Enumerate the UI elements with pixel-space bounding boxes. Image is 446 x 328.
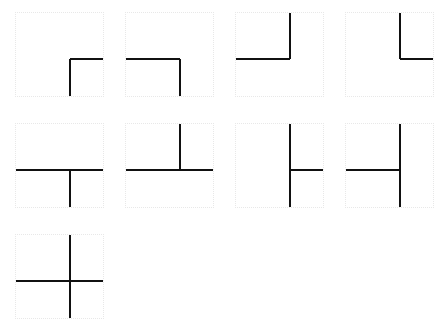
shape-cell-tee-down xyxy=(15,123,104,208)
shape-cell-corner-left-up xyxy=(235,12,324,97)
junction-canvas xyxy=(126,124,213,207)
shape-cell-corner-right-up xyxy=(345,12,434,97)
junction-canvas xyxy=(346,13,433,96)
junction-canvas xyxy=(16,124,103,207)
shape-cell-cross-four-way xyxy=(15,234,104,319)
shape-cell-corner-right-down xyxy=(15,12,104,97)
shape-cell-tee-left xyxy=(345,123,434,208)
shape-grid xyxy=(0,0,446,328)
junction-canvas xyxy=(236,124,323,207)
shape-cell-corner-left-down xyxy=(125,12,214,97)
junction-canvas xyxy=(346,124,433,207)
junction-canvas xyxy=(16,13,103,96)
shape-cell-tee-right xyxy=(235,123,324,208)
figure-root xyxy=(0,0,446,328)
junction-canvas xyxy=(126,13,213,96)
junction-canvas xyxy=(236,13,323,96)
shape-cell-tee-up xyxy=(125,123,214,208)
junction-canvas xyxy=(16,235,103,318)
